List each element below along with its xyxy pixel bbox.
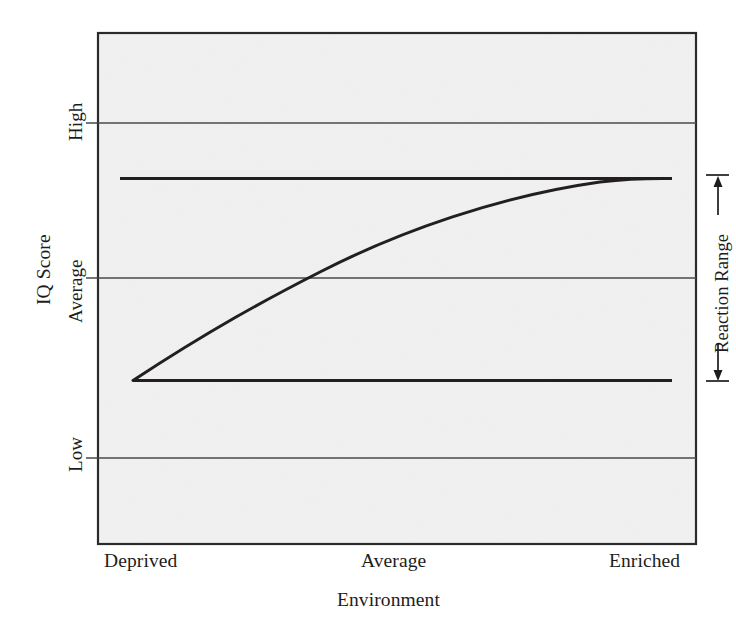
reaction-range-arrow-down-head <box>714 370 723 381</box>
reaction-range-annotation-label: Reaction Range <box>713 234 732 353</box>
y-axis-title: IQ Score <box>34 234 54 305</box>
y-tick-label-low: Low <box>66 437 85 472</box>
reaction-range-arrow-up-head <box>714 176 723 187</box>
y-tick-label-high: High <box>66 103 85 141</box>
plot-background-texture <box>98 33 696 544</box>
x-tick-label-enriched: Enriched <box>609 551 680 571</box>
x-tick-label-average: Average <box>361 551 426 571</box>
y-tick-label-average: Average <box>66 259 85 323</box>
chart-canvas <box>0 0 736 621</box>
x-tick-label-deprived: Deprived <box>104 551 177 571</box>
x-axis-title: Environment <box>337 590 440 610</box>
reaction-range-figure: IQ Score High Average Low Deprived Avera… <box>0 0 736 621</box>
